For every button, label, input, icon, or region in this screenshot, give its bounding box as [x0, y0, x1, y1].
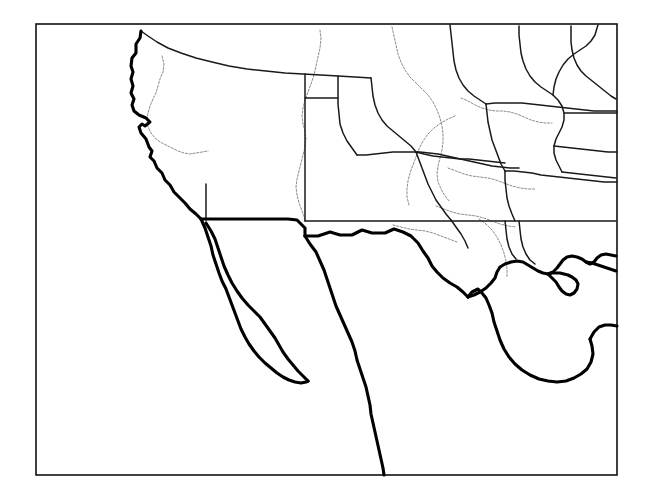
map-page [0, 0, 652, 502]
map-canvas [0, 0, 652, 502]
